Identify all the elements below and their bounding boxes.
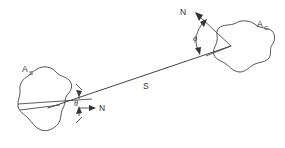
phi-angle-arc [196, 22, 204, 50]
receiver-area-sublabel: C [264, 25, 269, 31]
source-area-sublabel: S [29, 70, 33, 76]
diagram-canvas: A S A C S N N θ ϕ [0, 0, 285, 148]
technical-diagram: A S A C S N N θ ϕ [0, 0, 285, 148]
receiver-area-label: A [257, 19, 263, 29]
north-right-arrowhead [195, 12, 203, 21]
source-area-label: A [22, 64, 28, 74]
north-right-arrow-shaft [198, 15, 231, 46]
distance-label: S [143, 81, 149, 91]
source-chord-ray [20, 105, 60, 110]
phi-second-leg [206, 46, 231, 56]
phi-arc-bottom-arrowhead [195, 47, 201, 55]
theta-upper-tick [76, 84, 82, 90]
theta-label: θ [74, 99, 78, 108]
north-left-label: N [99, 103, 105, 113]
source-area-blob [18, 67, 72, 131]
north-left-arrowhead [89, 105, 96, 111]
phi-label: ϕ [193, 34, 197, 43]
source-reference-ray [18, 99, 92, 104]
north-right-label: N [180, 7, 186, 17]
theta-lower-tick [76, 117, 82, 123]
